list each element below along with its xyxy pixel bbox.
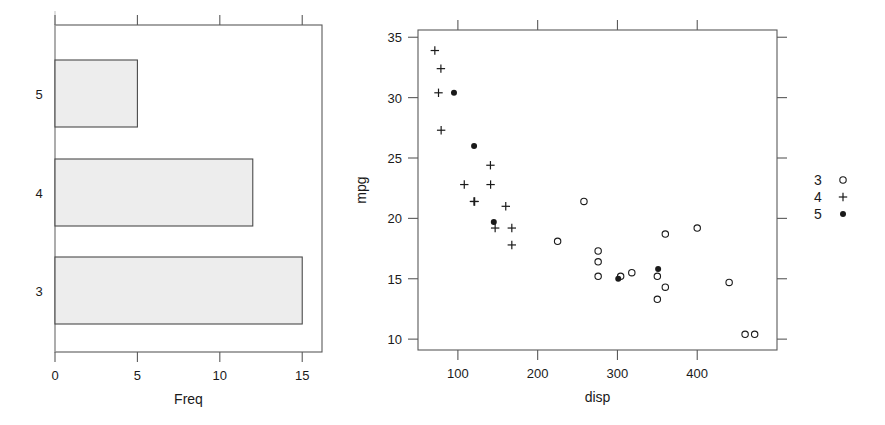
scatter-point-gear-4[interactable] [470, 197, 478, 205]
scatter-point-gear-3[interactable] [654, 296, 660, 302]
scatter-ytick-label: 20 [388, 211, 402, 226]
scatter-point-gear-3[interactable] [726, 279, 732, 285]
legend-marker-4[interactable] [839, 193, 847, 201]
scatter-point-gear-4[interactable] [486, 161, 494, 169]
scatter-xtick-label: 100 [447, 366, 469, 381]
scatter-point-gear-5[interactable] [471, 143, 477, 149]
scatter-plot-box [418, 30, 777, 350]
scatter-point-gear-4[interactable] [431, 46, 439, 54]
scatter-point-gear-4[interactable] [508, 241, 516, 249]
scatter-point-gear-4[interactable] [437, 126, 445, 134]
bar-4[interactable] [55, 159, 253, 226]
scatter-xtick-label: 300 [607, 366, 629, 381]
scatter-point-gear-3[interactable] [595, 248, 601, 254]
scatter-point-gear-3[interactable] [742, 331, 748, 337]
scatter-ytick-label: 10 [388, 332, 402, 347]
bar-5[interactable] [55, 60, 137, 127]
barchart-ytick-label-5: 5 [35, 87, 42, 102]
scatter-ytick-label: 35 [388, 30, 402, 45]
scatter-point-gear-3[interactable] [595, 259, 601, 265]
scatter-point-gear-3[interactable] [581, 198, 587, 204]
scatter-point-gear-3[interactable] [554, 238, 560, 244]
scatter-point-gear-3[interactable] [662, 231, 668, 237]
scatter-point-gear-3[interactable] [694, 225, 700, 231]
scatter-xtick-label: 400 [686, 366, 708, 381]
scatter-point-gear-3[interactable] [654, 273, 660, 279]
legend-label-3: 3 [814, 172, 822, 188]
scatter-point-gear-4[interactable] [437, 64, 445, 72]
scatter-point-gear-4[interactable] [486, 180, 494, 188]
scatter-point-gear-3[interactable] [751, 331, 757, 337]
scatter-xtick-label: 200 [527, 366, 549, 381]
barchart-xtick-label: 0 [51, 368, 58, 383]
scatter-ytick-label: 25 [388, 151, 402, 166]
scatter-point-gear-4[interactable] [502, 202, 510, 210]
scatter-point-gear-3[interactable] [595, 273, 601, 279]
scatter-point-gear-3[interactable] [629, 270, 635, 276]
scatter-point-gear-4[interactable] [491, 224, 499, 232]
barchart-xtick-label: 15 [295, 368, 309, 383]
scatter-point-gear-5[interactable] [491, 219, 497, 225]
legend-marker-5[interactable] [840, 211, 846, 217]
plot-svg: 051015345Freq100200300400101520253035dis… [0, 0, 885, 425]
scatter-point-gear-5[interactable] [655, 266, 661, 272]
scatter-xaxis-title: disp [585, 389, 611, 405]
scatter-ytick-label: 15 [388, 272, 402, 287]
scatter-ytick-label: 30 [388, 91, 402, 106]
barchart-ytick-label-4: 4 [35, 186, 42, 201]
figure-canvas: 051015345Freq100200300400101520253035dis… [0, 0, 885, 425]
scatter-point-gear-4[interactable] [508, 224, 516, 232]
scatter-point-gear-4[interactable] [434, 89, 442, 97]
scatter-point-gear-3[interactable] [662, 284, 668, 290]
scatter-point-gear-4[interactable] [460, 180, 468, 188]
legend-label-5: 5 [814, 206, 822, 222]
scatter-point-gear-5[interactable] [615, 276, 621, 282]
barchart-xtick-label: 5 [134, 368, 141, 383]
barchart-ytick-label-3: 3 [35, 284, 42, 299]
scatter-point-gear-5[interactable] [451, 90, 457, 96]
legend-label-4: 4 [814, 189, 822, 205]
scatter-yaxis-title: mpg [353, 176, 369, 203]
barchart-xtick-label: 10 [213, 368, 227, 383]
barchart-xaxis-title: Freq [174, 391, 203, 407]
bar-3[interactable] [55, 257, 302, 324]
legend-marker-3[interactable] [840, 177, 846, 183]
